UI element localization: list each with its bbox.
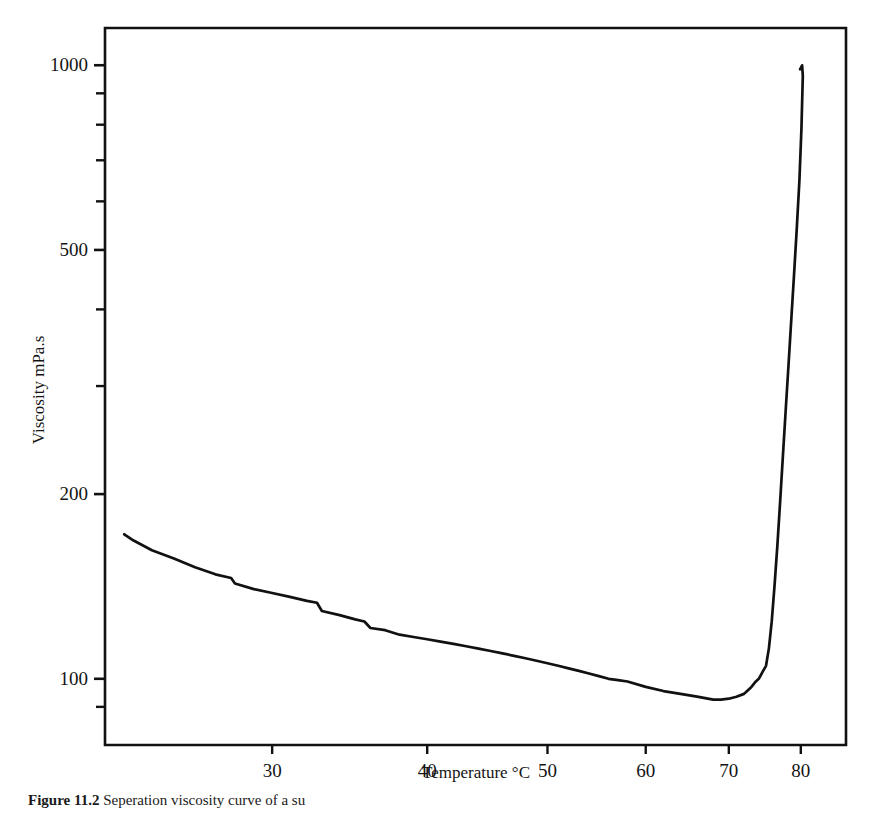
y-axis-tick-label: 100 bbox=[60, 668, 89, 689]
y-axis-ticks bbox=[94, 65, 105, 707]
plot-frame bbox=[105, 28, 846, 745]
y-axis-tick-label: 200 bbox=[60, 483, 89, 504]
x-axis-ticks bbox=[272, 745, 801, 754]
series-line bbox=[124, 65, 803, 699]
y-axis-tick-labels: 1002005001000 bbox=[50, 54, 88, 689]
x-axis-tick-label: 60 bbox=[636, 760, 655, 781]
x-axis-tick-label: 80 bbox=[791, 760, 810, 781]
x-axis-tick-label: 50 bbox=[538, 760, 557, 781]
x-axis-tick-label: 30 bbox=[263, 760, 282, 781]
y-axis-tick-label: 500 bbox=[60, 239, 89, 260]
data-series-viscosity bbox=[124, 65, 803, 699]
y-axis-title: Viscosity mPa.s bbox=[29, 336, 48, 445]
plot-border bbox=[105, 28, 846, 745]
x-axis-tick-labels: 304050607080 bbox=[263, 760, 811, 781]
x-axis-tick-label: 70 bbox=[719, 760, 738, 781]
figure-root: 1002005001000 304050607080 Temperature °… bbox=[0, 0, 870, 824]
figure-caption-label: Figure 11.2 bbox=[28, 792, 99, 808]
y-axis-tick-label: 1000 bbox=[50, 54, 88, 75]
x-axis-title: Temperature °C bbox=[422, 763, 530, 782]
viscosity-temperature-chart: 1002005001000 304050607080 Temperature °… bbox=[0, 0, 870, 824]
figure-caption-body: Seperation viscosity curve of a su bbox=[103, 792, 305, 808]
figure-caption: Figure 11.2 Seperation viscosity curve o… bbox=[28, 792, 848, 809]
